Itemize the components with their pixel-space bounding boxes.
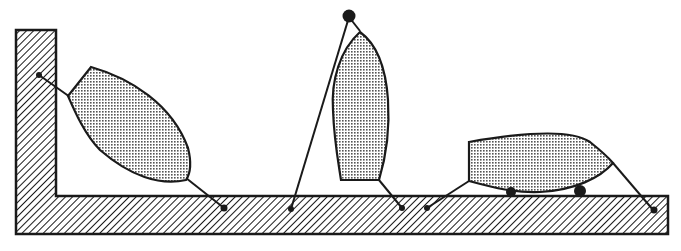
- boat-1-stern-anchor-point: [221, 205, 228, 212]
- boat-3-fender-fore: [574, 185, 586, 197]
- boat-2-masthead-float: [343, 10, 356, 23]
- boat-2-hull: [333, 32, 389, 180]
- boat-3-bow-anchor-point: [651, 207, 658, 214]
- boat-2-stern-anchor-point: [399, 205, 405, 211]
- diagram-canvas: [0, 0, 681, 251]
- boat-1-hull: [68, 67, 190, 182]
- boat-1: [36, 67, 228, 212]
- boat-3-hull: [469, 133, 613, 192]
- boat-3-stern-anchor-point: [424, 205, 430, 211]
- boat-3-fender-aft: [506, 187, 516, 197]
- boat-1-bow-anchor-point: [36, 72, 42, 78]
- diagram-stage: [0, 0, 681, 251]
- boat-2-mast-anchor-point: [288, 206, 294, 212]
- boat-2: [288, 10, 405, 213]
